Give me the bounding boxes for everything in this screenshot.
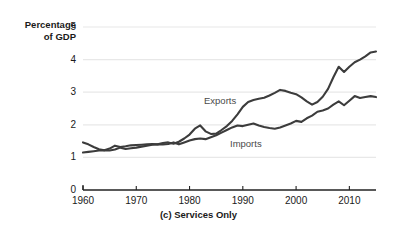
series-label-imports: Imports — [230, 138, 262, 149]
series-label-exports: Exports — [204, 95, 236, 106]
services-only-line-chart: Percentageof GDP 012345 1960197019801990… — [0, 0, 397, 235]
chart-caption: (c) Services Only — [0, 209, 397, 220]
chart-plot-area — [0, 0, 397, 235]
